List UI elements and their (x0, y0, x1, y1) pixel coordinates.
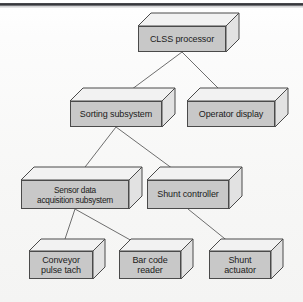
box-front-face (139, 27, 226, 52)
box-top-face (21, 167, 142, 180)
box-top-face (119, 239, 193, 251)
box-top-face (29, 239, 105, 251)
node-box-conveyor-pulse-tach[interactable]: Conveyor pulse tach (29, 239, 105, 279)
node-box-shunt-controller[interactable]: Shunt controller (147, 167, 242, 209)
box-front-face (210, 252, 271, 279)
node-box-sensor-data-acquisition-subsystem[interactable]: Sensor data acquisition subsystem (21, 167, 142, 209)
node-box-clss-processor[interactable]: CLSS processor (138, 13, 239, 52)
diagram-canvas: CLSS processorSorting subsystemOperator … (0, 0, 303, 302)
box-front-face (148, 181, 229, 209)
node-box-operator-display[interactable]: Operator display (187, 88, 288, 127)
box-front-face (71, 102, 162, 127)
box-front-face (188, 102, 275, 127)
box-front-face (120, 252, 181, 279)
box-front-face (30, 252, 93, 279)
box-top-face (209, 239, 283, 251)
box-top-face (138, 13, 239, 26)
node-box-bar-code-reader[interactable]: Bar code reader (119, 239, 193, 279)
box-top-face (70, 88, 175, 101)
box-top-face (147, 167, 242, 180)
box-front-face (22, 181, 129, 209)
node-box-sorting-subsystem[interactable]: Sorting subsystem (70, 88, 175, 127)
node-box-shunt-actuator[interactable]: Shunt actuator (209, 239, 283, 279)
box-top-face (187, 88, 288, 101)
